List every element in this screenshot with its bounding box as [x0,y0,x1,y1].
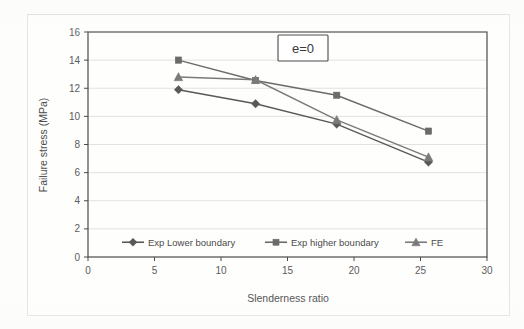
y-tick-label: 8 [74,139,80,150]
data-point-marker [251,100,259,108]
y-tick-label: 6 [74,167,80,178]
legend-label: Exp Lower boundary [148,237,235,248]
y-tick-label: 16 [69,27,81,38]
y-tick-label: 10 [69,111,81,122]
x-tick-label: 15 [282,265,294,276]
legend-square-marker [273,239,279,245]
x-axis-ticks: 051015202530 [85,257,493,276]
x-axis-title: Slenderness ratio [247,292,329,304]
data-point-marker [175,57,181,63]
data-point-marker [334,92,340,98]
data-point-marker [174,85,182,93]
y-tick-label: 4 [74,195,80,206]
series-line [178,90,428,162]
chart-legend: Exp Lower boundaryExp higher boundaryFE [122,237,443,248]
annotation-e0: e=0 [278,35,328,61]
x-tick-label: 0 [85,265,91,276]
data-point-marker [425,128,431,134]
chart-svg: 0246810121416 051015202530 Exp Lower bou… [0,0,524,329]
y-tick-label: 12 [69,83,81,94]
x-tick-label: 10 [215,265,227,276]
grid-lines [88,60,487,229]
x-tick-label: 30 [481,265,493,276]
y-tick-label: 2 [74,223,80,234]
data-series-group [174,57,433,166]
series-line [178,60,428,131]
y-axis-ticks: 0246810121416 [69,27,88,263]
legend-label: Exp higher boundary [291,237,379,248]
y-axis-title: Failure stress (MPa) [37,98,49,193]
annotation-label: e=0 [292,41,314,56]
x-tick-label: 20 [348,265,360,276]
data-point-marker [424,153,433,161]
y-tick-label: 14 [69,55,81,66]
chart-figure: 0246810121416 051015202530 Exp Lower bou… [0,0,524,329]
legend-label: FE [431,237,443,248]
y-tick-label: 0 [74,252,80,263]
x-tick-label: 5 [152,265,158,276]
legend-diamond-marker [129,238,137,246]
x-tick-label: 25 [415,265,427,276]
